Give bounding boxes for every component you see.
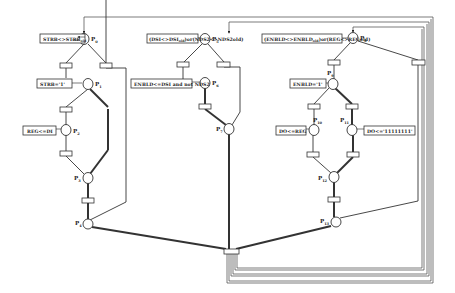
action-label-p11: DO<='11111111': [367, 129, 412, 134]
svg-text:P7: P7: [216, 126, 223, 134]
svg-text:P3: P3: [74, 175, 81, 183]
svg-text:P12: P12: [318, 175, 328, 183]
transition: [328, 197, 340, 202]
action-label-p6: ENBLD<=DSI and not NDS2: [134, 82, 210, 87]
place-p12: [329, 172, 339, 183]
place-p13: [331, 217, 341, 227]
petri-net-diagram: STRB<>STRBold STRB='1' REG<=DI (DSI<>DSI…: [0, 0, 455, 293]
transition: [199, 104, 211, 109]
place-p11: [347, 125, 357, 136]
transition: [217, 62, 230, 67]
svg-text:P13: P13: [320, 218, 330, 226]
place-p10: [309, 125, 319, 136]
transition: [308, 104, 320, 109]
place-p3: [83, 173, 93, 184]
transitions: [60, 60, 425, 254]
transition: [60, 151, 72, 156]
action-label-p10: DO<=REG: [279, 129, 307, 134]
action-label-p1: STRB='1': [40, 82, 65, 87]
place-p2: [61, 125, 71, 136]
sync-transition: [224, 249, 239, 254]
place-p9: [328, 79, 338, 90]
transition: [328, 60, 340, 65]
transition: [177, 62, 189, 67]
svg-text:P0: P0: [91, 36, 98, 44]
place-p7: [224, 124, 234, 135]
transition: [307, 152, 319, 157]
action-label-p2: REG<=DI: [27, 129, 53, 134]
place-p4: [83, 219, 93, 229]
svg-text:P9: P9: [327, 70, 334, 78]
svg-text:P4: P4: [75, 220, 82, 228]
svg-text:P11: P11: [340, 117, 350, 125]
svg-text:P2: P2: [73, 128, 80, 136]
transition: [82, 198, 94, 203]
transition: [100, 63, 112, 68]
transition: [60, 107, 72, 112]
transition: [346, 104, 358, 109]
transition: [412, 60, 425, 65]
transition: [347, 152, 359, 157]
svg-text:P1: P1: [95, 81, 102, 89]
place-p1: [83, 79, 93, 90]
transition: [60, 63, 72, 68]
svg-text:P6: P6: [212, 80, 219, 88]
action-label-p9: ENBLD='1': [293, 82, 323, 87]
